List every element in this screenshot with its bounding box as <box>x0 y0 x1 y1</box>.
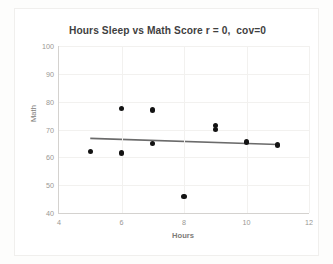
y-tick-label: 70 <box>46 125 54 134</box>
gridline-vertical <box>184 46 185 213</box>
y-tick-label: 60 <box>46 153 54 162</box>
scatter-point <box>119 150 124 155</box>
gridline-vertical <box>122 46 123 213</box>
x-tick-label: 10 <box>243 218 251 227</box>
gridline-vertical <box>309 46 310 213</box>
gridline-vertical <box>247 46 248 213</box>
chart-title: Hours Sleep vs Math Score r = 0, cov=0 <box>15 25 320 36</box>
x-tick-label: 6 <box>120 218 124 227</box>
scatter-point <box>181 194 186 199</box>
x-tick-label: 4 <box>57 218 61 227</box>
y-axis-title: Math <box>29 105 38 122</box>
chart-container: Hours Sleep vs Math Score r = 0, cov=0 4… <box>14 8 319 256</box>
y-tick-label: 100 <box>42 42 54 51</box>
scatter-point <box>244 139 249 144</box>
y-tick-label: 80 <box>46 97 54 106</box>
x-axis-title: Hours <box>58 231 308 240</box>
scatter-point <box>275 142 280 147</box>
page-background: Hours Sleep vs Math Score r = 0, cov=0 4… <box>0 0 333 264</box>
x-tick-label: 12 <box>305 218 313 227</box>
plot-area: 4050607080901004681012 <box>58 46 309 214</box>
x-tick-label: 8 <box>182 218 186 227</box>
y-tick-label: 40 <box>46 209 54 218</box>
y-tick-label: 90 <box>46 69 54 78</box>
y-tick-label: 50 <box>46 181 54 190</box>
